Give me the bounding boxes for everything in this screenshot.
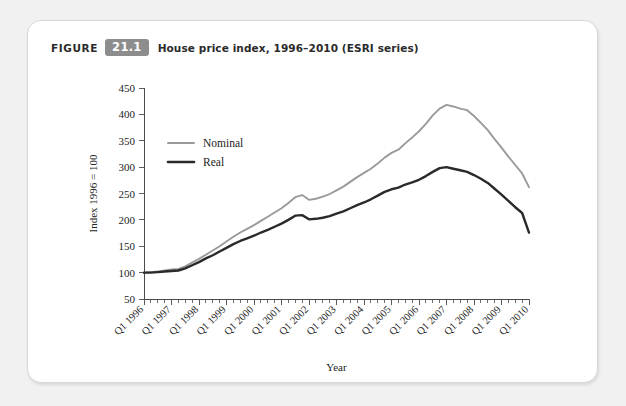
y-tick-label: 200 — [119, 214, 136, 226]
x-tick-label: Q1 1996 — [112, 304, 146, 338]
x-tick-label: Q1 2010 — [497, 304, 531, 338]
y-axis-title: Index 1996 = 100 — [87, 154, 99, 232]
line-chart: 50100150200250300350400450 Q1 1996Q1 199… — [28, 21, 599, 384]
x-tick-label: Q1 2007 — [414, 304, 448, 338]
x-tick-label: Q1 1999 — [194, 304, 228, 338]
x-tick-label: Q1 2003 — [304, 304, 338, 338]
x-tick-label: Q1 2009 — [469, 304, 503, 338]
x-tick-label: Q1 2005 — [359, 304, 393, 338]
x-axis-title: Year — [326, 361, 347, 373]
chart-legend: NominalReal — [168, 137, 243, 168]
y-tick-label: 50 — [124, 293, 136, 305]
x-tick-label: Q1 2000 — [222, 304, 256, 338]
x-tick-label: Q1 2002 — [277, 304, 311, 338]
x-tick-label: Q1 2001 — [249, 304, 283, 338]
data-series-group — [144, 105, 529, 273]
legend-label-real: Real — [203, 156, 224, 168]
chart-plot-area: 50100150200250300350400450 Q1 1996Q1 199… — [28, 21, 599, 384]
y-axis: 50100150200250300350400450 — [119, 82, 145, 305]
x-tick-label: Q1 1998 — [167, 304, 201, 338]
y-tick-label: 150 — [119, 240, 136, 252]
y-tick-label: 100 — [119, 267, 136, 279]
legend-label-nominal: Nominal — [203, 137, 243, 149]
y-tick-label: 350 — [119, 135, 136, 147]
x-axis: Q1 1996Q1 1997Q1 1998Q1 1999Q1 2000Q1 20… — [112, 299, 531, 337]
figure-card: FIGURE 21.1 House price index, 1996–2010… — [27, 20, 598, 383]
x-tick-label: Q1 2006 — [387, 304, 421, 338]
y-tick-label: 300 — [119, 161, 136, 173]
series-line-nominal — [144, 105, 529, 273]
x-tick-label: Q1 1997 — [139, 304, 173, 338]
y-tick-label: 400 — [119, 108, 136, 120]
y-tick-label: 450 — [119, 82, 136, 94]
x-tick-label: Q1 2008 — [442, 304, 476, 338]
figure-page: FIGURE 21.1 House price index, 1996–2010… — [0, 0, 626, 406]
y-tick-label: 250 — [119, 188, 136, 200]
